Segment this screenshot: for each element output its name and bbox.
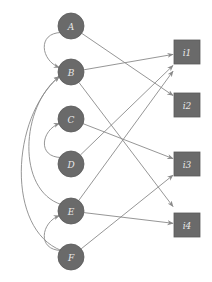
edge-F-to-i3	[81, 175, 173, 249]
edge-F-to-E	[44, 216, 61, 251]
edge-E-to-i1	[79, 71, 173, 200]
edge-D-to-C	[44, 124, 61, 158]
node-label: i1	[183, 48, 192, 58]
node-i1[interactable]: i1	[174, 40, 200, 64]
node-label: E	[67, 207, 75, 217]
node-A[interactable]: A	[58, 13, 84, 39]
node-i2[interactable]: i2	[174, 93, 200, 117]
edge-C-to-i3	[83, 124, 173, 159]
edge-A-to-i2	[82, 33, 173, 95]
node-label: A	[67, 22, 75, 32]
node-E[interactable]: E	[58, 198, 84, 224]
edge-B-to-i1	[84, 54, 173, 69]
edge-B-to-i4	[79, 82, 173, 206]
node-i3[interactable]: i3	[174, 152, 200, 176]
node-B[interactable]: B	[58, 59, 84, 85]
node-label: B	[67, 68, 75, 78]
node-D[interactable]: D	[58, 151, 84, 177]
node-label: i4	[183, 221, 192, 231]
node-F[interactable]: F	[58, 244, 84, 270]
node-label: F	[67, 253, 75, 263]
graph-canvas: ABCDEFi1i2i3i4	[0, 0, 212, 282]
edges-layer	[21, 33, 173, 251]
node-i4[interactable]: i4	[174, 213, 200, 237]
edge-A-to-B	[44, 33, 61, 68]
edge-F-to-B	[21, 77, 61, 251]
node-C[interactable]: C	[58, 106, 84, 132]
edge-E-to-i4	[84, 213, 173, 224]
edge-D-to-i1	[80, 66, 173, 156]
node-label: D	[66, 160, 74, 170]
node-label: C	[68, 115, 75, 125]
node-label: i3	[183, 160, 192, 170]
node-label: i2	[183, 101, 192, 111]
